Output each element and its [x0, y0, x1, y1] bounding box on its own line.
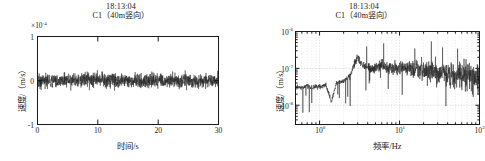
spectrum-ticks [296, 32, 480, 125]
ytick-label: 0 [30, 76, 34, 85]
xtick-label: 101 [395, 126, 405, 135]
figure-root: 18:13:04 C1（40m竖向） ×10-4 [0, 0, 485, 161]
xtick-label: 102 [475, 126, 485, 135]
ytick-label: -1 [28, 120, 34, 129]
spectrum-trace [296, 41, 480, 112]
xtick-label: 30 [215, 126, 223, 135]
ytick-label: 1 [30, 32, 34, 41]
xtick-label: 20 [154, 126, 162, 135]
panel-spectrum: 18:13:04 C1（40m竖向） 100 101 102 10-6 10-7… [243, 0, 485, 161]
ytick-label: 10-6 [281, 27, 293, 36]
spectrum-yaxis-label: 速度/（m/s） [273, 66, 285, 112]
time-history-xaxis-label: 时间/s [37, 139, 219, 151]
xtick-label: 100 [315, 126, 325, 135]
panel-time-history: 18:13:04 C1（40m竖向） ×10-4 [0, 0, 242, 161]
xtick-label: 10 [94, 126, 102, 135]
spectrum-axes-frame [296, 32, 480, 125]
xtick-label: 0 [36, 126, 40, 135]
time-history-yaxis-label: 速度/（m/s） [15, 66, 27, 112]
spectrum-xaxis-label: 频率/Hz [295, 139, 480, 151]
spectrum-grid [296, 32, 480, 125]
time-history-plot [0, 0, 242, 161]
time-history-trace [38, 70, 219, 91]
